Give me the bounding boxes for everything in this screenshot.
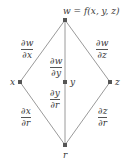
fraction-dy-dr: ∂y ∂r [50,89,60,110]
label-z: z [115,78,120,87]
fraction-denominator: ∂r [50,101,59,110]
node-r [63,143,67,147]
fraction-dw-dy: ∂w ∂y [50,57,62,78]
fraction-denominator: ∂z [97,51,106,60]
label-w: w = f(x, y, z) [63,7,119,16]
node-y [63,80,67,84]
fraction-dw-dz: ∂w ∂z [96,39,108,60]
node-x [18,80,22,84]
fraction-numerator: ∂w [96,39,108,48]
fraction-numerator: ∂y [50,89,60,98]
label-x: x [10,78,15,87]
fraction-dz-dr: ∂z ∂r [98,107,107,128]
label-y: y [70,78,75,87]
fraction-numerator: ∂z [98,107,107,116]
fraction-numerator: ∂x [21,107,31,116]
fraction-numerator: ∂w [21,39,33,48]
node-w [63,18,67,22]
node-z [108,80,112,84]
fraction-dx-dr: ∂x ∂r [21,107,31,128]
fraction-numerator: ∂w [50,57,62,66]
fraction-denominator: ∂r [98,119,107,128]
label-r: r [63,151,67,160]
fraction-denominator: ∂x [22,51,32,60]
fraction-denominator: ∂y [51,69,61,78]
fraction-denominator: ∂r [21,119,30,128]
fraction-dw-dx: ∂w ∂x [21,39,33,60]
tree-diagram [0,0,129,164]
